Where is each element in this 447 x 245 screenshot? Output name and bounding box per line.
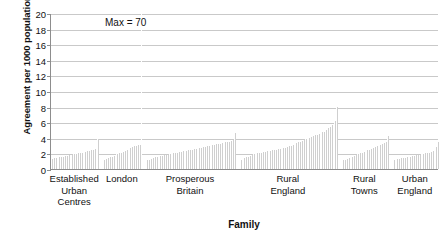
bar — [336, 107, 338, 169]
y-tick-label: 2 — [20, 150, 46, 159]
y-axis-tick-labels: 20181614121086420 — [18, 14, 46, 170]
y-tick-label: 6 — [20, 119, 46, 128]
group-label-prosperous-britain: ProsperousBritain — [145, 173, 235, 196]
bar — [437, 142, 439, 169]
x-axis-title: Family — [50, 219, 438, 230]
group-label-line: Centres — [29, 196, 119, 208]
y-tick-label: 10 — [20, 88, 46, 97]
group-label-line: Britain — [145, 185, 235, 197]
bar — [234, 133, 236, 169]
group-label-line: Prosperous — [145, 173, 235, 185]
plot-area — [50, 14, 438, 170]
group-label-line: England — [370, 185, 447, 197]
y-tick-label: 12 — [20, 72, 46, 81]
x-axis-group-labels: EstablishedUrbanCentresLondonProsperousB… — [50, 173, 438, 219]
y-tick-label: 8 — [20, 103, 46, 112]
y-tick-label: 14 — [20, 56, 46, 65]
bar — [141, 13, 143, 169]
y-tick-label: 16 — [20, 41, 46, 50]
group-label-urban-england: UrbanEngland — [370, 173, 447, 196]
y-tick-label: 4 — [20, 134, 46, 143]
bar — [97, 139, 99, 169]
max-annotation: Max = 70 — [105, 17, 146, 28]
y-tick-label: 18 — [20, 25, 46, 34]
chart-container: Agreement per 1000 population 2018161412… — [0, 0, 447, 245]
y-tick-mark — [47, 170, 51, 171]
y-tick-label: 20 — [20, 10, 46, 19]
bar — [387, 136, 389, 169]
group-label-line: Urban — [370, 173, 447, 185]
group-label-line: Urban — [29, 185, 119, 197]
bar-series — [51, 14, 438, 169]
